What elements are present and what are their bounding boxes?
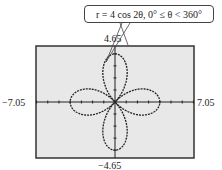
y-min-label: −4.65 <box>98 160 121 170</box>
y-max-label: 4.65 <box>104 33 122 44</box>
x-max-label: 7.05 <box>197 97 215 108</box>
equation-callout: r = 4 cos 2θ, 0° ≤ θ < 360° <box>84 5 214 23</box>
x-min-label: −7.05 <box>2 97 25 108</box>
graph-plot <box>0 0 222 170</box>
